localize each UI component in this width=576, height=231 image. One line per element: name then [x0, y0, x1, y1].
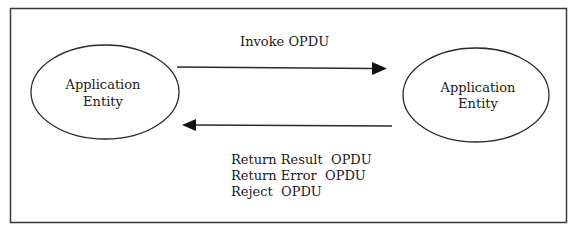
arrowhead-left-icon [182, 119, 196, 131]
return-result-label: Return Result OPDU [231, 152, 372, 167]
diagram-canvas: Application Entity Application Entity In… [0, 0, 576, 231]
arrow-line [177, 67, 372, 69]
entity-label-line2: Entity [458, 96, 498, 111]
node-left-application-entity: Application Entity [31, 45, 179, 139]
arrowhead-right-icon [372, 62, 387, 75]
edge-invoke: Invoke OPDU [177, 34, 387, 75]
invoke-opdu-label: Invoke OPDU [240, 34, 329, 49]
entity-ellipse [31, 45, 179, 139]
entity-ellipse [403, 48, 549, 142]
entity-label-line1: Application [440, 80, 517, 95]
arrow-line [196, 125, 392, 126]
node-right-application-entity: Application Entity [403, 48, 549, 142]
entity-label-line1: Application [65, 77, 142, 92]
return-error-label: Return Error OPDU [231, 168, 366, 183]
entity-label-line2: Entity [83, 94, 123, 109]
edge-responses: Return Result OPDU Return Error OPDU Rej… [182, 119, 392, 199]
reject-label: Reject OPDU [231, 184, 322, 199]
